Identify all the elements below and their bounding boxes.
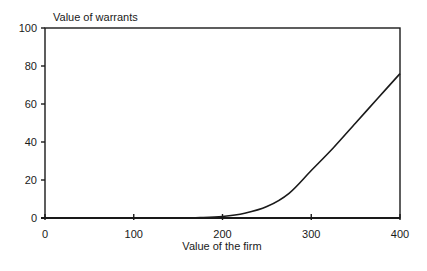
- y-tick-label: 100: [19, 22, 37, 34]
- x-tick-label: 100: [125, 228, 143, 240]
- y-tick-label: 60: [25, 98, 37, 110]
- x-tick-label: 0: [42, 228, 48, 240]
- y-tick-label: 0: [31, 212, 37, 224]
- y-tick-label: 80: [25, 60, 37, 72]
- x-tick-label: 300: [302, 228, 320, 240]
- warrant-value-chart: 020406080100 0100200300400 Value of warr…: [0, 0, 427, 271]
- x-tick-label: 200: [213, 228, 231, 240]
- plot-border: [45, 28, 400, 218]
- x-tick-label: 400: [391, 228, 409, 240]
- y-axis-ticks: 020406080100: [19, 22, 45, 224]
- x-axis-label: Value of the firm: [182, 240, 261, 252]
- y-axis-label: Value of warrants: [53, 11, 138, 23]
- y-tick-label: 20: [25, 174, 37, 186]
- plot-frame: [41, 28, 400, 218]
- y-tick-label: 40: [25, 136, 37, 148]
- warrant-value-curve: [45, 74, 400, 218]
